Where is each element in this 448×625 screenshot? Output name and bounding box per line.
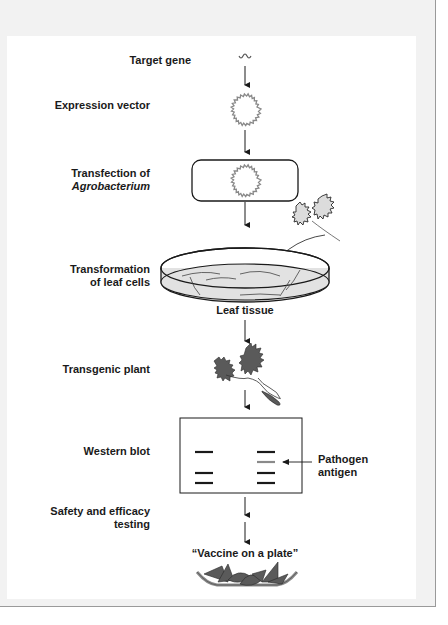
target-gene-icon — [239, 54, 251, 58]
petri-dish-icon — [161, 248, 329, 302]
agrobacterium-cell-icon — [192, 160, 298, 201]
western-blot-panel — [180, 418, 312, 493]
transgenic-plant-icon — [214, 343, 280, 405]
diagram-artwork — [0, 0, 448, 625]
vaccine-plate-icon — [197, 562, 297, 585]
cut-leaves-icon — [292, 194, 340, 241]
plasmid-icon — [231, 94, 261, 126]
